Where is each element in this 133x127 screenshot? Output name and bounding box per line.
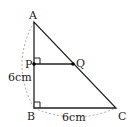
point-p <box>32 62 36 66</box>
label-p: P <box>25 59 32 70</box>
label-b: B <box>27 111 35 122</box>
measure-bc: 6cm <box>62 112 86 123</box>
triangle-abc <box>34 22 116 108</box>
point-q <box>71 62 75 66</box>
label-c: C <box>118 111 126 122</box>
measure-ab: 6cm <box>8 72 32 83</box>
label-q: Q <box>76 58 85 69</box>
triangle-diagram: A P Q B C 6cm 6cm <box>0 0 133 127</box>
diagram-canvas <box>0 0 133 127</box>
label-a: A <box>29 10 37 21</box>
right-angle-b-icon <box>34 102 40 108</box>
